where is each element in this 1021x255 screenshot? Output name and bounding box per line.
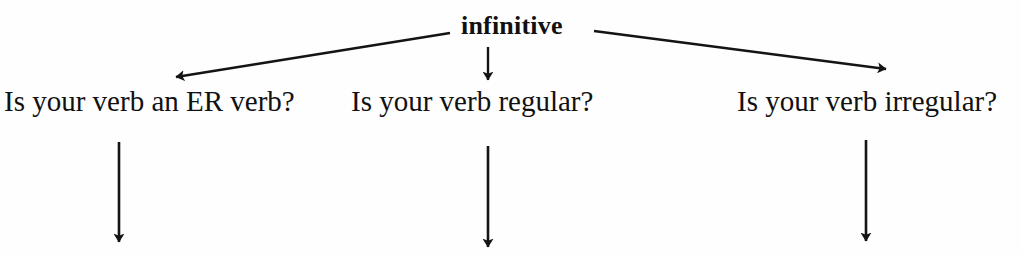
question-node-regular: Is your verb regular? [351,87,593,116]
flowchart-diagram: infinitive Is your verb an ER verb? Is y… [0,0,1021,255]
question-node-er-verb: Is your verb an ER verb? [4,87,295,116]
edge-root-to-question-right [594,31,886,69]
question-node-irregular: Is your verb irregular? [737,87,997,116]
edge-root-to-question-left [176,33,450,77]
root-node-label: infinitive [461,13,563,39]
